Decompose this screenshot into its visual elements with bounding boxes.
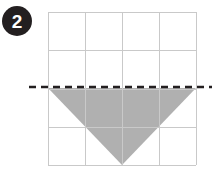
badge-number-label: 2 [12, 11, 23, 32]
reflection-figure-svg: 2 [0, 0, 220, 173]
figure-container: 2 [0, 0, 220, 173]
step-badge: 2 [2, 6, 32, 36]
